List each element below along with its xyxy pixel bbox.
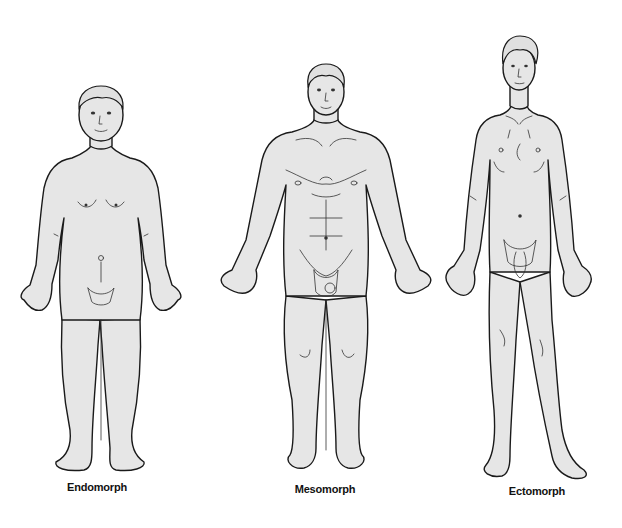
endomorph-figure	[21, 86, 181, 471]
endomorph-label: Endomorph	[67, 481, 127, 493]
ectomorph-label: Ectomorph	[509, 485, 565, 497]
ectomorph-figure	[446, 36, 591, 479]
mesomorph-label: Mesomorph	[295, 483, 356, 495]
somatotype-diagram: .skin { fill: #e6e6e6; stroke: #1a1a1a; …	[0, 0, 622, 528]
mesomorph-figure	[221, 64, 431, 468]
